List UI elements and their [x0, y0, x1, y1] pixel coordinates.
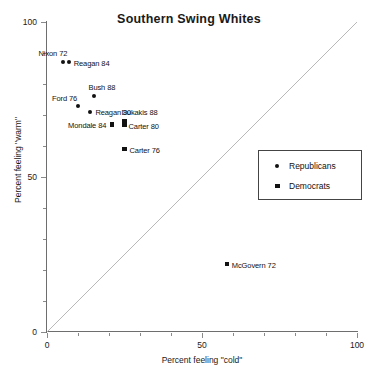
y-tick-label: 0: [32, 327, 37, 337]
x-tick-label: 50: [197, 340, 206, 350]
y-tick: [43, 208, 46, 209]
y-tick: [41, 22, 46, 23]
y-tick: [41, 177, 46, 178]
x-tick-label: 0: [45, 340, 50, 350]
x-tick: [233, 333, 234, 336]
data-point-label: Dukakis 88: [122, 108, 158, 117]
data-point-label: Carter 80: [129, 122, 159, 131]
data-point-marker: [122, 147, 127, 152]
x-tick: [264, 333, 265, 336]
y-tick: [43, 146, 46, 147]
data-point-label: Ford 76: [52, 94, 77, 103]
scatter-chart: Southern Swing Whites 050100050100 Nixon…: [0, 0, 378, 382]
y-tick: [43, 84, 46, 85]
x-tick: [171, 333, 172, 336]
data-point-label: Bush 88: [89, 83, 116, 92]
x-tick: [140, 333, 141, 336]
legend-item-republicans: Republicans: [259, 157, 363, 175]
y-tick: [43, 270, 46, 271]
y-axis-title: Percent feeling "warm": [13, 60, 23, 260]
y-axis-line: [46, 21, 47, 333]
y-tick-label: 50: [28, 172, 37, 182]
legend-label-democrats: Democrats: [289, 181, 330, 191]
data-point-marker: [61, 60, 65, 64]
x-tick: [326, 333, 327, 336]
y-tick: [41, 332, 46, 333]
data-point-label: Nixon 72: [39, 49, 68, 58]
x-tick: [202, 333, 203, 338]
data-point-label: McGovern 72: [232, 261, 276, 270]
x-tick-label: 100: [350, 340, 364, 350]
y-tick: [43, 301, 46, 302]
y-tick: [43, 239, 46, 240]
square-marker-icon: [275, 184, 280, 189]
circle-marker-icon: [275, 164, 279, 168]
data-point-marker: [110, 122, 115, 127]
data-point-label: Carter 76: [130, 146, 160, 155]
data-point-label: Mondale 84: [68, 121, 106, 130]
y-tick: [43, 115, 46, 116]
x-tick: [295, 333, 296, 336]
x-tick: [109, 333, 110, 336]
x-tick: [357, 333, 358, 338]
x-tick: [78, 333, 79, 336]
data-point-marker: [67, 60, 71, 64]
data-point-marker: [225, 262, 230, 267]
legend-label-republicans: Republicans: [289, 161, 336, 171]
chart-title: Southern Swing Whites: [0, 12, 378, 26]
legend-item-democrats: Democrats: [259, 177, 363, 195]
legend: Republicans Democrats: [258, 150, 362, 200]
data-point-marker: [92, 94, 96, 98]
y-tick-label: 100: [23, 17, 37, 27]
data-point-marker: [76, 104, 80, 108]
x-tick: [47, 333, 48, 338]
data-point-marker: [122, 122, 127, 127]
data-point-marker: [88, 110, 92, 114]
data-point-label: Reagan 84: [74, 59, 110, 68]
x-axis-title: Percent feeling "cold": [47, 355, 357, 365]
